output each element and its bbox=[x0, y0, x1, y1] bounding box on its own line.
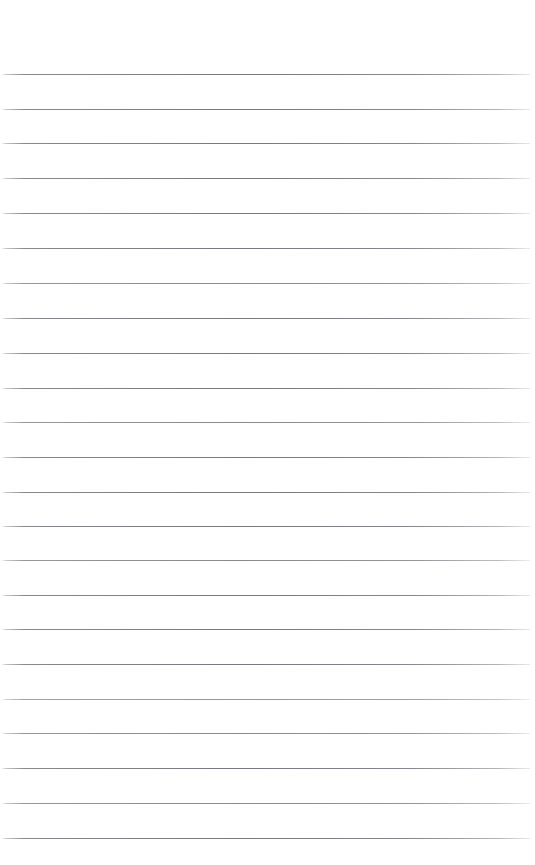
ruled-lines-container bbox=[0, 0, 535, 865]
ruled-line bbox=[2, 109, 530, 110]
ruled-line bbox=[2, 213, 530, 214]
ruled-line bbox=[2, 422, 530, 423]
ruled-line bbox=[2, 803, 530, 804]
ruled-line bbox=[2, 318, 530, 319]
ruled-line bbox=[2, 74, 530, 75]
paper-page bbox=[0, 0, 535, 865]
ruled-line bbox=[2, 838, 530, 839]
ruled-line bbox=[2, 248, 530, 249]
ruled-line bbox=[2, 526, 530, 527]
ruled-line bbox=[2, 733, 530, 734]
ruled-line bbox=[2, 595, 530, 596]
ruled-line bbox=[2, 699, 530, 700]
ruled-line bbox=[2, 492, 530, 493]
ruled-line bbox=[2, 143, 530, 144]
ruled-line bbox=[2, 560, 530, 561]
ruled-line bbox=[2, 388, 530, 389]
ruled-line bbox=[2, 457, 530, 458]
ruled-line bbox=[2, 178, 530, 179]
ruled-line bbox=[2, 768, 530, 769]
ruled-line bbox=[2, 353, 530, 354]
ruled-line bbox=[2, 629, 530, 630]
ruled-line bbox=[2, 664, 530, 665]
ruled-line bbox=[2, 283, 530, 284]
